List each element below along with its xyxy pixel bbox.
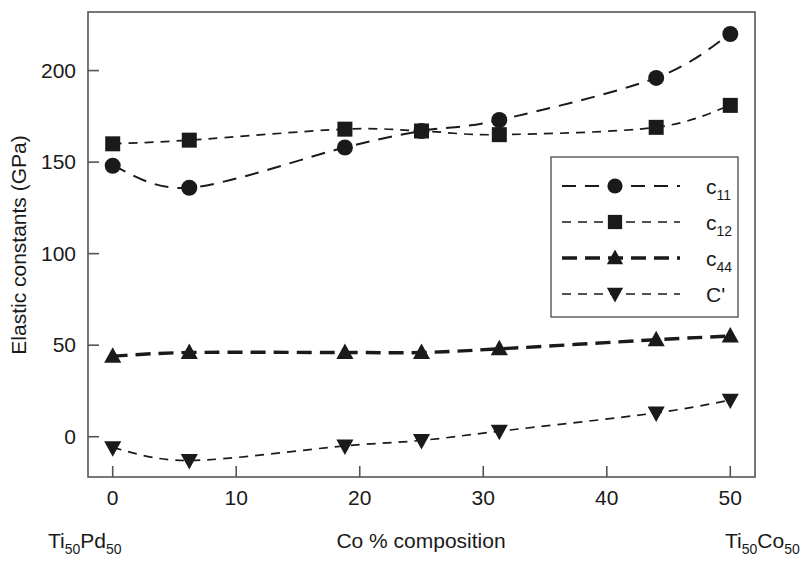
y-tick-label: 200 [41,59,76,82]
right-endpoint-element-1: Ti [725,529,742,552]
x-tick-label: 30 [472,486,495,509]
x-tick-label: 50 [719,486,742,509]
legend-label-base: C' [706,283,725,306]
right-endpoint-element-2: Co [757,529,784,552]
legend-label-subscript: 12 [717,223,733,239]
data-point-square [105,136,120,151]
data-point-square [337,122,352,137]
data-point-square [723,98,738,113]
data-point-circle [607,178,622,193]
x-axis-title: Co % composition [336,529,505,552]
legend-label-subscript: 11 [717,187,732,203]
data-point-circle [337,139,353,155]
y-tick-label: 100 [41,242,76,265]
right-endpoint-subscript-2: 50 [784,541,800,557]
data-point-circle [648,70,664,86]
elastic-constants-chart: 050100150200 01020304050 Elastic constan… [0,0,805,564]
x-tick-label: 0 [107,486,119,509]
legend-label-base: c [706,211,717,234]
chart-canvas: 050100150200 01020304050 Elastic constan… [0,0,805,564]
y-tick-label: 0 [64,425,76,448]
left-endpoint-subscript-1: 50 [65,541,81,557]
data-point-square [414,123,429,138]
data-point-square [492,127,507,142]
x-tick-label: 10 [225,486,248,509]
legend-label-Cprime: C' [706,283,725,306]
data-point-circle [491,112,507,128]
data-point-circle [181,180,197,196]
y-tick-label: 150 [41,150,76,173]
data-point-circle [105,158,121,174]
y-tick-label: 50 [53,333,76,356]
legend-label-base: c [706,247,717,270]
legend-label-base: c [706,175,717,198]
left-endpoint-element-2: Pd [80,529,106,552]
data-point-circle [722,26,738,42]
data-point-square [608,215,622,229]
legend: c11c12c44C' [551,157,738,317]
data-point-square [182,133,197,148]
right-endpoint-subscript-1: 50 [742,541,758,557]
data-point-square [649,120,664,135]
legend-label-subscript: 44 [717,259,733,275]
left-endpoint-subscript-2: 50 [106,541,122,557]
y-axis-title: Elastic constants (GPa) [7,135,30,354]
x-tick-label: 40 [595,486,618,509]
x-tick-label: 20 [348,486,371,509]
left-endpoint-element-1: Ti [48,529,65,552]
